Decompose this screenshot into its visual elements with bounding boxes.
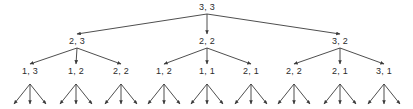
edge-n2-1-to-n3-3 [164,48,207,64]
leaf-arrow-right-leaf-2 [121,84,137,104]
leaf-arrow-right-leaf-0 [30,84,46,104]
edge-root-to-n2-2 [207,14,340,34]
tree-node-n2-0: 2, 3 [69,36,85,46]
tree-node-root: 3, 3 [199,2,215,12]
tree-node-n3-7: 2, 1 [332,66,348,76]
edge-n2-2-to-n3-6 [294,48,340,64]
tree-diagram-canvas: 3, 32, 32, 23, 21, 31, 22, 21, 21, 12, 1… [0,0,413,109]
tree-node-n3-8: 3, 1 [376,66,392,76]
edge-n2-1-to-n3-5 [207,48,251,64]
leaf-arrow-right-leaf-4 [207,84,223,104]
tree-node-n3-0: 1, 3 [22,66,38,76]
leaf-arrow-left-leaf-8 [368,84,384,104]
leaf-arrow-right-leaf-7 [340,84,356,104]
leaf-arrow-left-leaf-1 [60,84,76,104]
tree-node-n3-4: 1, 1 [199,66,215,76]
edge-n2-0-to-n3-0 [30,48,77,64]
tree-node-n3-3: 1, 2 [156,66,172,76]
leaf-arrow-right-leaf-5 [251,84,267,104]
leaf-arrow-right-leaf-8 [384,84,400,104]
leaf-arrow-left-leaf-3 [148,84,164,104]
tree-node-n2-1: 2, 2 [199,36,215,46]
tree-node-n3-1: 1, 2 [68,66,84,76]
tree-edges [14,14,400,104]
leaf-arrow-right-leaf-1 [76,84,92,104]
tree-node-n3-5: 2, 1 [243,66,259,76]
edge-n2-2-to-n3-8 [340,48,384,64]
edge-root-to-n2-0 [77,14,207,34]
tree-diagram-svg: 3, 32, 32, 23, 21, 31, 22, 21, 21, 12, 1… [0,0,413,109]
tree-node-labels: 3, 32, 32, 23, 21, 31, 22, 21, 21, 12, 1… [22,2,392,76]
leaf-arrow-right-leaf-6 [294,84,310,104]
leaf-arrow-left-leaf-6 [278,84,294,104]
edge-n2-0-to-n3-1 [76,48,77,64]
leaf-arrow-left-leaf-7 [324,84,340,104]
leaf-arrow-left-leaf-0 [14,84,30,104]
tree-node-n3-2: 2, 2 [113,66,129,76]
leaf-arrow-left-leaf-2 [105,84,121,104]
leaf-arrow-left-leaf-4 [191,84,207,104]
leaf-arrow-left-leaf-5 [235,84,251,104]
tree-node-n2-2: 3, 2 [332,36,348,46]
leaf-arrow-right-leaf-3 [164,84,180,104]
edge-n2-0-to-n3-2 [77,48,121,64]
tree-node-n3-6: 2, 2 [286,66,302,76]
